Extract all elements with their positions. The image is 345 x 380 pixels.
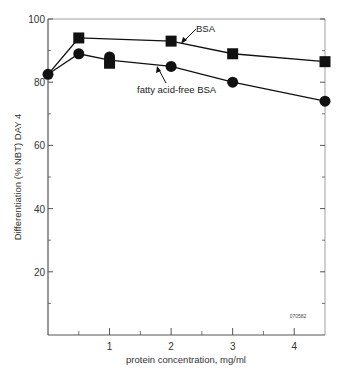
x-tick-label: 3 bbox=[230, 341, 236, 352]
square-marker bbox=[227, 48, 238, 59]
x-tick-label: 1 bbox=[107, 341, 113, 352]
annotations: BSAfatty acid-free BSA070582 bbox=[137, 23, 307, 319]
square-marker bbox=[104, 58, 115, 69]
annotation-fatty-acid-free: fatty acid-free BSA bbox=[137, 84, 217, 95]
x-axis-label: protein concentration, mg/ml bbox=[126, 354, 246, 365]
square-marker bbox=[166, 36, 177, 47]
y-tick-label: 60 bbox=[34, 140, 46, 151]
annotation-bsa: BSA bbox=[196, 23, 216, 34]
circle-marker bbox=[166, 61, 177, 72]
circle-marker bbox=[227, 77, 238, 88]
circle-marker bbox=[320, 96, 331, 107]
square-marker bbox=[73, 32, 84, 43]
x-tick-label: 2 bbox=[168, 341, 174, 352]
y-tick-label: 80 bbox=[34, 77, 46, 88]
circle-marker bbox=[73, 48, 84, 59]
axes: 204060801001234 bbox=[28, 14, 325, 352]
y-axis-label: Differentiation (% NBT) DAY 4 bbox=[12, 114, 23, 241]
data-series bbox=[43, 32, 331, 106]
line-chart: 204060801001234 BSAfatty acid-free BSA07… bbox=[0, 0, 345, 380]
figure-code: 070582 bbox=[290, 313, 307, 319]
y-tick-label: 100 bbox=[28, 14, 45, 25]
x-tick-label: 4 bbox=[291, 341, 297, 352]
y-tick-label: 20 bbox=[34, 267, 46, 278]
circle-marker bbox=[43, 69, 54, 80]
arrowhead-bsa bbox=[181, 37, 187, 44]
y-tick-label: 40 bbox=[34, 204, 46, 215]
square-marker bbox=[320, 56, 331, 67]
